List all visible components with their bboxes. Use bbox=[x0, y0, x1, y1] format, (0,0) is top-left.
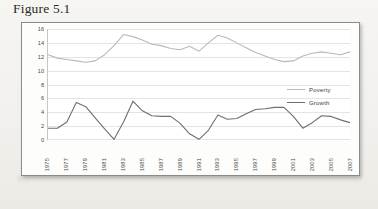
x-axis-tick-label: 1989 bbox=[177, 158, 183, 171]
x-axis-tick-label: 1993 bbox=[214, 158, 220, 171]
x-axis-tick-label: 1977 bbox=[63, 158, 69, 171]
x-axis-tick-label: 2007 bbox=[347, 158, 353, 171]
x-axis-tick-label: 1999 bbox=[271, 158, 277, 171]
x-axis-tick-label: 1981 bbox=[101, 158, 107, 171]
figure-caption: Figure 5.1 bbox=[13, 1, 71, 17]
chart-legend: PovertyGrowth bbox=[287, 83, 351, 109]
x-axis-tick-label: 1987 bbox=[158, 158, 164, 171]
x-axis-tick-label: 1975 bbox=[44, 158, 50, 171]
x-axis-tick-label: 2003 bbox=[309, 158, 315, 171]
y-axis-tick-label: 10 bbox=[26, 68, 44, 74]
line-swatch-icon bbox=[287, 89, 305, 91]
x-axis-tick-label: 1997 bbox=[252, 158, 258, 171]
y-axis-tick-label: 14 bbox=[26, 40, 44, 46]
x-axis-tick-label: 1983 bbox=[120, 158, 126, 171]
chart-container: 0246810121416 19751977197919811983198519… bbox=[21, 22, 360, 176]
x-axis-tick-label: 1979 bbox=[82, 158, 88, 171]
legend-item-growth[interactable]: Growth bbox=[287, 96, 351, 109]
scanned-page-background: Figure 5.1 0246810121416 197519771979198… bbox=[0, 0, 378, 209]
line-swatch-icon bbox=[287, 102, 305, 104]
x-axis-tick-label: 2005 bbox=[328, 158, 334, 171]
page-scan-shadow bbox=[18, 176, 360, 183]
plot-wrapper: 0246810121416 19751977197919811983198519… bbox=[22, 23, 359, 175]
y-axis-tick-label: 12 bbox=[26, 54, 44, 60]
x-axis-tick-label: 2001 bbox=[290, 158, 296, 171]
x-axis-tick-label: 1985 bbox=[139, 158, 145, 171]
legend-item-label: Growth bbox=[309, 100, 330, 106]
legend-item-poverty[interactable]: Poverty bbox=[287, 83, 351, 96]
x-axis: 1975197719791981198319851987198919911993… bbox=[47, 141, 350, 171]
y-axis-tick-label: 6 bbox=[26, 95, 44, 101]
y-axis-tick-label: 4 bbox=[26, 109, 44, 115]
y-axis: 0246810121416 bbox=[26, 29, 44, 140]
x-axis-tick-label: 1991 bbox=[196, 158, 202, 171]
y-axis-tick-label: 8 bbox=[26, 82, 44, 88]
y-axis-tick-label: 16 bbox=[26, 26, 44, 32]
y-axis-tick-label: 0 bbox=[26, 137, 44, 143]
x-axis-tick-label: 1995 bbox=[233, 158, 239, 171]
series-line-poverty bbox=[48, 35, 350, 63]
y-axis-tick-label: 2 bbox=[26, 123, 44, 129]
legend-item-label: Poverty bbox=[309, 87, 331, 93]
